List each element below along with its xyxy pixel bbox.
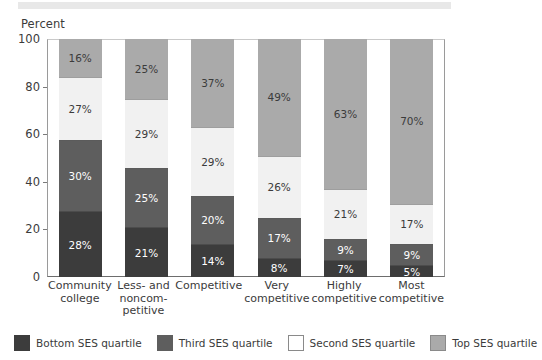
bar-slot: 70%17%9%5%	[379, 39, 445, 277]
chart-legend: Bottom SES quartileThird SES quartileSec…	[14, 335, 542, 351]
legend-swatch	[14, 335, 30, 351]
x-axis-label: Communitycollege	[47, 280, 113, 318]
stacked-bar-group: 16%27%30%28%25%29%25%21%37%29%20%14%49%2…	[47, 39, 445, 277]
legend-label: Second SES quartile	[310, 337, 416, 349]
bar-slot: 25%29%25%21%	[113, 39, 179, 277]
bar-segment[interactable]: 9%	[324, 239, 367, 260]
x-axis-label: Highlycompetitive	[310, 280, 377, 318]
x-axis-label-line: Less- and	[114, 280, 174, 293]
x-axis-label: Verycompetitive	[243, 280, 310, 318]
x-axis-label: Competitive	[174, 280, 243, 318]
stacked-bar[interactable]: 63%21%9%7%	[324, 39, 367, 277]
bar-segment[interactable]: 28%	[59, 211, 102, 277]
bar-segment[interactable]: 30%	[59, 140, 102, 211]
bar-segment[interactable]: 27%	[59, 77, 102, 141]
x-axis-label-line: Highly	[311, 280, 376, 293]
y-tick-label: 40	[25, 175, 40, 189]
x-axis-label-line: Community	[48, 280, 112, 293]
bar-segment[interactable]: 21%	[125, 227, 168, 277]
bar-segment[interactable]: 9%	[390, 244, 433, 265]
y-tick-label: 0	[33, 270, 40, 284]
legend-swatch	[288, 335, 304, 351]
bar-segment[interactable]: 37%	[191, 39, 234, 127]
y-tick-label: 20	[25, 222, 40, 236]
bar-segment[interactable]: 20%	[191, 196, 234, 244]
x-axis-label: Less- andnoncom-petitive	[113, 280, 175, 318]
bar-segment[interactable]: 5%	[390, 265, 433, 277]
bar-slot: 37%29%20%14%	[180, 39, 246, 277]
legend-item[interactable]: Top SES quartile	[430, 335, 537, 351]
bar-segment[interactable]: 7%	[324, 260, 367, 277]
y-tick-label: 100	[18, 32, 40, 46]
x-axis-labels: CommunitycollegeLess- andnoncom-petitive…	[47, 280, 445, 318]
legend-item[interactable]: Second SES quartile	[288, 335, 416, 351]
stacked-bar[interactable]: 25%29%25%21%	[125, 39, 168, 277]
x-axis-label: Mostcompetitive	[378, 280, 445, 318]
bar-segment[interactable]: 25%	[125, 39, 168, 99]
bar-segment[interactable]: 17%	[390, 204, 433, 244]
bar-segment[interactable]: 16%	[59, 39, 102, 77]
header-band	[18, 2, 451, 9]
x-axis-label-line: college	[48, 293, 112, 306]
y-tick-label: 80	[25, 80, 40, 94]
bar-segment[interactable]: 25%	[125, 168, 168, 228]
bar-segment[interactable]: 29%	[191, 127, 234, 196]
y-axis-title: Percent	[21, 17, 65, 31]
x-axis-label-line: competitive	[311, 293, 376, 306]
x-axis-label-line: Very	[244, 280, 309, 293]
stacked-bar[interactable]: 49%26%17%8%	[258, 39, 301, 277]
bar-segment[interactable]: 29%	[125, 99, 168, 168]
bar-segment[interactable]: 21%	[324, 189, 367, 239]
stacked-bar[interactable]: 16%27%30%28%	[59, 39, 102, 277]
legend-item[interactable]: Third SES quartile	[157, 335, 273, 351]
x-axis-label-line: competitive	[379, 293, 444, 306]
bar-segment[interactable]: 26%	[258, 156, 301, 218]
x-axis-label-line: Most	[379, 280, 444, 293]
stacked-bar[interactable]: 70%17%9%5%	[390, 39, 433, 277]
bar-slot: 63%21%9%7%	[312, 39, 378, 277]
stacked-bar[interactable]: 37%29%20%14%	[191, 39, 234, 277]
chart-plot-area: 020406080100 16%27%30%28%25%29%25%21%37%…	[47, 39, 445, 277]
legend-swatch	[430, 335, 446, 351]
bar-slot: 49%26%17%8%	[246, 39, 312, 277]
legend-item[interactable]: Bottom SES quartile	[14, 335, 142, 351]
legend-swatch	[157, 335, 173, 351]
x-axis-label-line: Competitive	[175, 280, 242, 293]
bar-segment[interactable]: 17%	[258, 218, 301, 258]
legend-label: Bottom SES quartile	[36, 337, 142, 349]
bar-segment[interactable]: 14%	[191, 244, 234, 277]
bar-segment[interactable]: 70%	[390, 39, 433, 204]
x-axis-label-line: competitive	[244, 293, 309, 306]
legend-label: Third SES quartile	[179, 337, 273, 349]
bar-slot: 16%27%30%28%	[47, 39, 113, 277]
bar-segment[interactable]: 8%	[258, 258, 301, 277]
bar-segment[interactable]: 49%	[258, 39, 301, 156]
legend-label: Top SES quartile	[452, 337, 537, 349]
y-tick-label: 60	[25, 127, 40, 141]
x-axis-label-line: petitive	[114, 305, 174, 318]
bar-segment[interactable]: 63%	[324, 39, 367, 189]
